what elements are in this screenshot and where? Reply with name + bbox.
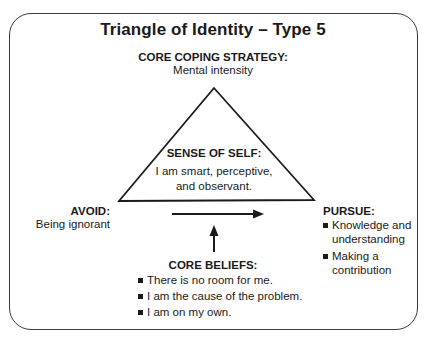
pursue-item: Knowledge and understanding — [323, 218, 415, 246]
avoid-heading: AVOID: — [20, 205, 110, 217]
core-beliefs-list: There is no room for me. I am the cause … — [138, 273, 318, 319]
pursue-list: Knowledge and understanding Making a con… — [323, 218, 415, 277]
pursue-section: PURSUE: Knowledge and understanding Maki… — [323, 205, 415, 277]
core-belief-item: I am on my own. — [138, 305, 318, 319]
sense-of-self-line: I am smart, perceptive, — [140, 164, 288, 179]
core-belief-item: There is no room for me. — [138, 273, 318, 287]
sense-of-self-heading: SENSE OF SELF: — [140, 147, 288, 159]
pursue-heading: PURSUE: — [323, 205, 415, 217]
arrow-right-icon — [172, 210, 264, 219]
core-beliefs-heading: CORE BELIEFS: — [138, 259, 288, 271]
core-beliefs: CORE BELIEFS: There is no room for me. I… — [138, 259, 318, 319]
avoid-text: Being ignorant — [20, 218, 110, 230]
sense-of-self: SENSE OF SELF: I am smart, perceptive, a… — [140, 147, 288, 194]
arrow-up-icon — [210, 225, 219, 252]
core-belief-item: I am the cause of the problem. — [138, 289, 318, 303]
pursue-item: Making a contribution — [323, 249, 415, 277]
avoid-section: AVOID: Being ignorant — [20, 205, 110, 230]
sense-of-self-line: and observant. — [140, 179, 288, 194]
